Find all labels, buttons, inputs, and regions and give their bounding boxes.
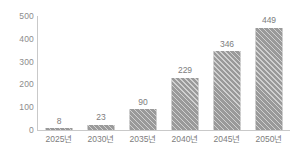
bar	[172, 78, 199, 130]
x-category-label: 2035년	[130, 135, 157, 144]
bar-group: 23	[80, 16, 122, 130]
bar-group: 90	[122, 16, 164, 130]
x-category-label: 2025년	[46, 135, 73, 144]
y-tick-label: 200	[4, 80, 34, 89]
bar-chart: 5004003002001000 82390229346449 2025년203…	[0, 0, 293, 156]
bar	[256, 28, 283, 130]
bar-value-label: 346	[220, 40, 234, 49]
y-tick-label: 500	[4, 12, 34, 21]
x-axis-line	[37, 130, 290, 131]
bar	[88, 125, 115, 130]
y-tick-label: 400	[4, 35, 34, 44]
y-tick-label: 300	[4, 58, 34, 67]
bar-group: 8	[38, 16, 80, 130]
y-tick-label: 0	[4, 126, 34, 135]
x-axis-category-labels: 2025년2030년2035년2040년2045년2050년	[38, 135, 290, 153]
bar	[46, 128, 73, 130]
plot-area: 82390229346449	[38, 16, 290, 130]
bar-value-label: 23	[96, 113, 105, 122]
bar	[130, 109, 157, 130]
bar-group: 449	[248, 16, 290, 130]
y-tick-label: 100	[4, 103, 34, 112]
x-category-label: 2050년	[256, 135, 283, 144]
bar-group: 229	[164, 16, 206, 130]
y-axis-tick-labels: 5004003002001000	[0, 0, 34, 156]
bar-group: 346	[206, 16, 248, 130]
bar-value-label: 229	[178, 66, 192, 75]
x-category-label: 2030년	[88, 135, 115, 144]
bar-value-label: 90	[138, 98, 147, 107]
bar-value-label: 8	[57, 117, 62, 126]
x-category-label: 2040년	[172, 135, 199, 144]
bar-value-label: 449	[262, 16, 276, 25]
bar	[214, 51, 241, 130]
x-category-label: 2045년	[214, 135, 241, 144]
